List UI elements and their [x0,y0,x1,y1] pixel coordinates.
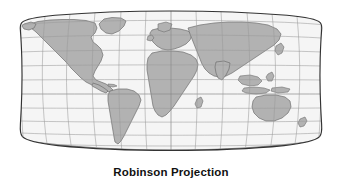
robinson-projection-figure: Robinson Projection [0,0,342,187]
world-map [0,0,342,168]
world-map-svg [0,0,342,168]
map-caption: Robinson Projection [0,166,342,178]
